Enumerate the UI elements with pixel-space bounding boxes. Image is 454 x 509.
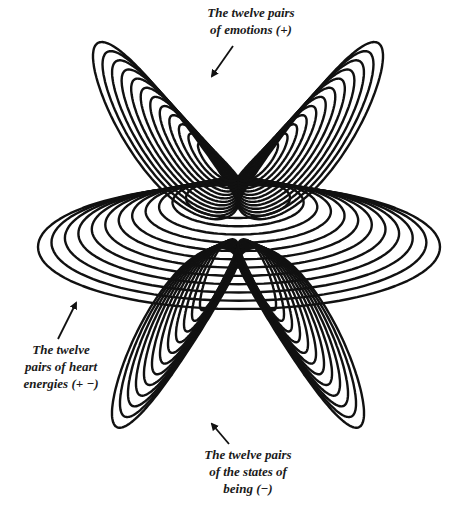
label-heart-energies-line2: pairs of heart xyxy=(6,358,116,375)
arrow-to-heart-energies-icon xyxy=(58,303,76,339)
label-emotions-line2: of emotions (+) xyxy=(196,21,306,38)
label-emotions-line1: The twelve pairs xyxy=(196,4,306,21)
label-states-of-being-line3: being (−) xyxy=(188,480,308,497)
arrow-to-states-of-being-icon xyxy=(212,424,229,444)
label-states-of-being-line2: of the states of xyxy=(188,463,308,480)
label-heart-energies: The twelve pairs of heart energies (+ −) xyxy=(6,341,116,392)
nested-loops-diagram xyxy=(0,0,454,509)
label-states-of-being-line1: The twelve pairs xyxy=(188,446,308,463)
label-heart-energies-line1: The twelve xyxy=(6,341,116,358)
label-states-of-being: The twelve pairs of the states of being … xyxy=(188,446,308,497)
label-emotions: The twelve pairs of emotions (+) xyxy=(196,4,306,38)
arrow-to-emotions-icon xyxy=(212,46,233,76)
label-heart-energies-line3: energies (+ −) xyxy=(6,375,116,392)
